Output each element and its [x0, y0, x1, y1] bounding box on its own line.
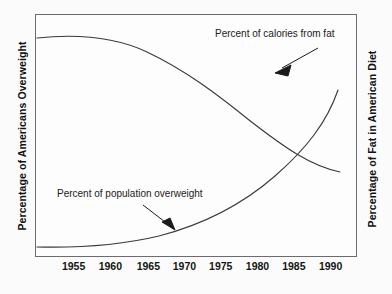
x-tick-label: 1990 [319, 260, 342, 272]
x-tick-label: 1955 [62, 260, 85, 272]
x-tick-label: 1975 [209, 260, 232, 272]
x-tick-label: 1960 [99, 260, 122, 272]
curve-percent-calories-from-fat [37, 36, 340, 172]
arrow-line-fat [282, 48, 318, 68]
arrow-head-fat [275, 65, 291, 76]
x-tick-label: 1965 [137, 260, 160, 272]
annotation-percent-population-overweight: Percent of population overweight [57, 188, 203, 199]
x-tick-label: 1985 [282, 260, 305, 272]
y-axis-right-title: Percentage of Fat in American Diet [366, 24, 378, 254]
curve-percent-population-overweight [37, 90, 338, 247]
chart-figure: Percentage of Americans Overweight Perce… [0, 0, 392, 294]
x-tick-label: 1980 [246, 260, 269, 272]
plot-curves [35, 14, 357, 257]
x-axis-tick-labels: 19551960196519701975198019851990 [35, 260, 357, 276]
y-axis-left-title: Percentage of Americans Overweight [16, 21, 28, 251]
arrow-head-overweight [162, 218, 175, 230]
annotation-percent-calories-from-fat: Percent of calories from fat [215, 28, 335, 39]
x-tick-label: 1970 [173, 260, 196, 272]
